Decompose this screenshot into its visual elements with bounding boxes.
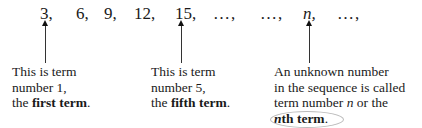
ellipsis-1: …, bbox=[213, 4, 236, 24]
ellipsis-3: …, bbox=[337, 4, 360, 24]
annotation-fifth-term: This is term number 5, the fifth term. bbox=[151, 64, 230, 111]
term-4: 12, bbox=[134, 4, 155, 24]
nth-term-highlight: nth term. bbox=[274, 111, 328, 127]
term-2: 6, bbox=[76, 4, 89, 24]
annotation-text: term number bbox=[274, 95, 347, 110]
annotation-nth-term: An unknown number in the sequence is cal… bbox=[274, 64, 405, 126]
ellipsis-2: …, bbox=[260, 4, 283, 24]
bold-term-label: fifth term bbox=[171, 95, 227, 110]
annotation-line: the fifth term. bbox=[151, 95, 230, 111]
annotation-text: or the bbox=[353, 95, 388, 110]
arrow-up-icon-term-1 bbox=[45, 25, 46, 63]
bold-term-label: first term bbox=[32, 95, 87, 110]
term-3: 9, bbox=[104, 4, 117, 24]
annotation-text: . bbox=[227, 95, 230, 110]
annotation-text: . bbox=[325, 111, 328, 126]
arrow-up-icon-term-n bbox=[309, 25, 310, 63]
annotation-first-term: This is term number 1, the first term. bbox=[12, 64, 90, 111]
annotation-line: This is term bbox=[12, 64, 90, 80]
annotation-line: number 1, bbox=[12, 80, 90, 96]
annotation-line: in the sequence is called bbox=[274, 80, 405, 96]
annotation-line: the first term. bbox=[12, 95, 90, 111]
arrow-up-icon-term-5 bbox=[181, 25, 182, 63]
annotation-line: This is term bbox=[151, 64, 230, 80]
annotation-text: . bbox=[87, 95, 90, 110]
bold-italic-n: n bbox=[274, 111, 282, 126]
annotation-line: term number n or the bbox=[274, 95, 405, 111]
annotation-line: nth term. bbox=[274, 111, 405, 127]
annotation-line: number 5, bbox=[151, 80, 230, 96]
bold-term-label: th term bbox=[282, 111, 325, 126]
annotation-text: the bbox=[151, 95, 171, 110]
annotation-text: the bbox=[12, 95, 32, 110]
annotation-line: An unknown number bbox=[274, 64, 405, 80]
